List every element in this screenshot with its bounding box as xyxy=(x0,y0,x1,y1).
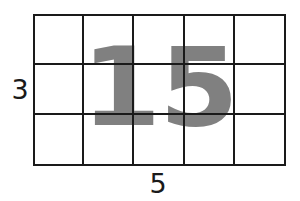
width-dimension-label: 5 xyxy=(145,170,171,197)
grid-cell xyxy=(33,14,84,65)
grid-cell xyxy=(134,14,185,65)
grid-cell xyxy=(235,115,286,166)
grid-cell xyxy=(134,115,185,166)
figure-canvas: 15 3 5 xyxy=(0,0,300,201)
area-model-grid: 15 xyxy=(33,14,286,166)
grid-cell xyxy=(84,115,135,166)
grid-cell xyxy=(84,65,135,116)
grid-cell xyxy=(235,14,286,65)
grid-cell xyxy=(185,65,236,116)
grid-cell xyxy=(185,115,236,166)
grid-cell xyxy=(84,14,135,65)
height-dimension-label: 3 xyxy=(10,76,30,103)
grid-cells xyxy=(33,14,286,166)
grid-cell xyxy=(134,65,185,116)
grid-cell xyxy=(33,65,84,116)
grid-cell xyxy=(235,65,286,116)
grid-cell xyxy=(185,14,236,65)
grid-cell xyxy=(33,115,84,166)
